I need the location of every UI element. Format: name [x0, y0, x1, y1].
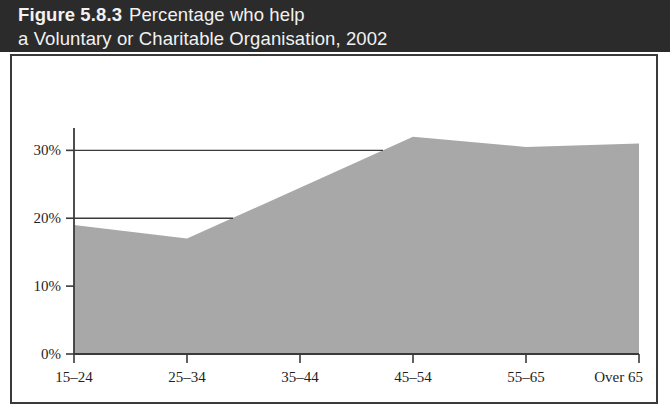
chart-panel: 0%10%20%30%15–2425–3435–4445–5455–65Over… [10, 54, 658, 404]
x-axis-tick-label: 45–54 [394, 369, 432, 385]
figure-title-line-2: a Voluntary or Charitable Organisation, … [18, 27, 670, 51]
area-series [74, 137, 639, 354]
x-axis-tick-label: 25–34 [168, 369, 206, 385]
area-chart: 0%10%20%30%15–2425–3435–4445–5455–65Over… [12, 56, 656, 402]
y-axis-tick-label: 10% [34, 278, 62, 294]
figure-number: Figure 5.8.3 [18, 4, 122, 25]
figure-title-band: Figure 5.8.3Percentage who help a Volunt… [0, 0, 670, 52]
y-axis-tick-label: 30% [34, 142, 62, 158]
x-axis-tick-label: 55–65 [507, 369, 545, 385]
x-axis-tick-label: Over 65 [594, 369, 643, 385]
figure-title-line-1: Figure 5.8.3Percentage who help [18, 3, 670, 27]
y-axis-tick-label: 0% [41, 346, 61, 362]
y-axis-tick-label: 20% [34, 210, 62, 226]
x-axis-tick-label: 15–24 [55, 369, 93, 385]
x-axis-tick-label: 35–44 [281, 369, 319, 385]
figure-title-text-part-1: Percentage who help [129, 4, 305, 25]
figure-container: Figure 5.8.3Percentage who help a Volunt… [0, 0, 670, 414]
